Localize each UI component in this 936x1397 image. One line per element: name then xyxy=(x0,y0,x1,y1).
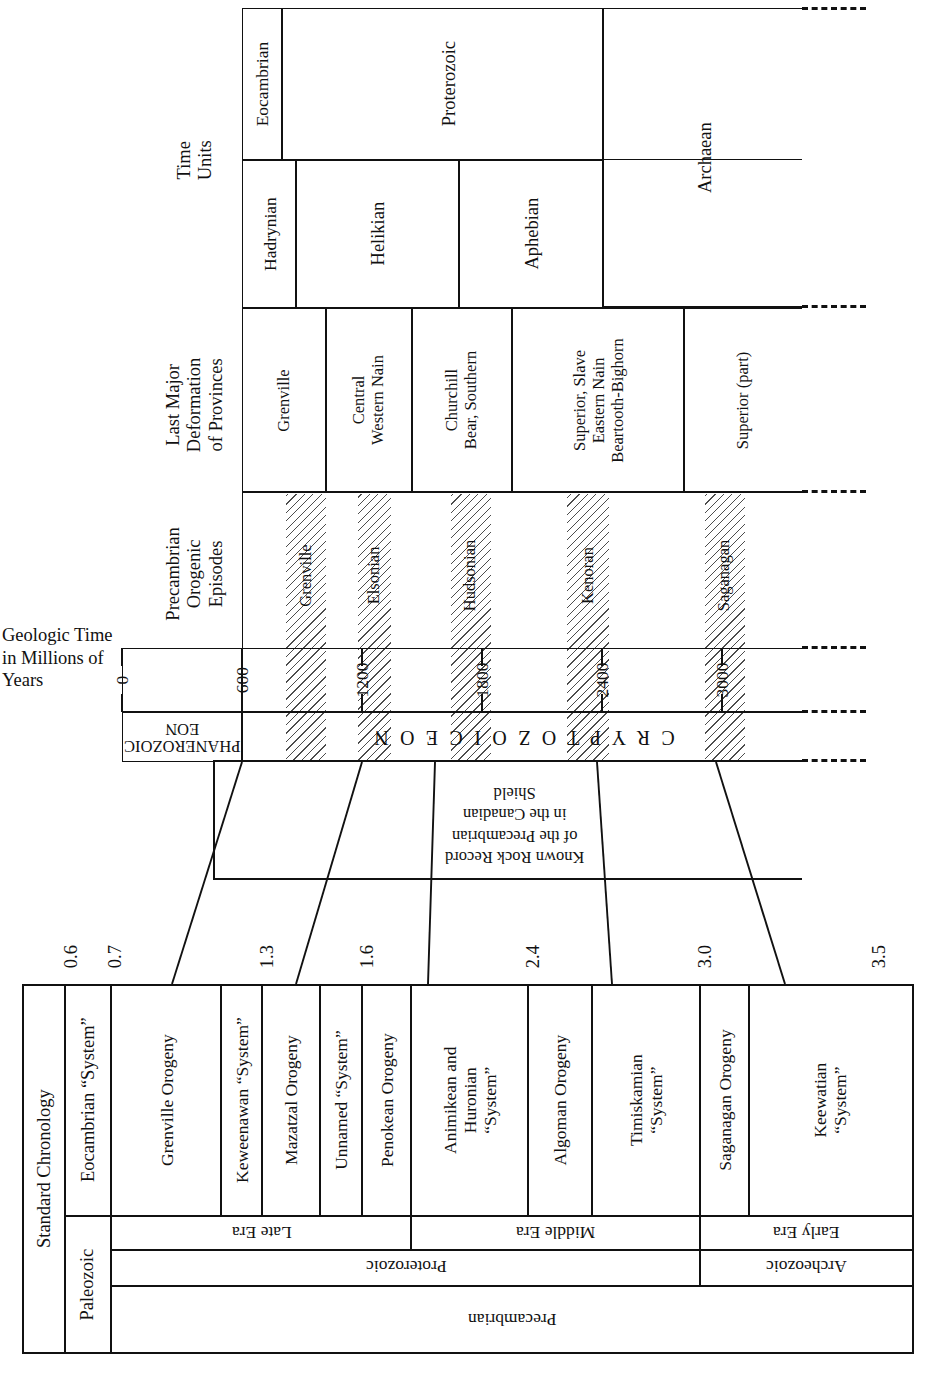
cell-deformation-2-line-1: Central xyxy=(350,355,369,445)
column-header-time-units: Time Units xyxy=(140,10,250,310)
time-units-header-line-1: Time xyxy=(174,140,195,180)
cell-aphebian-line-1: Aphebian xyxy=(522,198,543,270)
cell-deformation-1-line-1: Grenville xyxy=(275,369,294,431)
dashed-edge-4 xyxy=(802,646,866,649)
cell-deformation-2-line-2: Western Nain xyxy=(369,355,388,445)
cryptozoic-text: C R Y P T O Z O I C E O N xyxy=(371,726,675,749)
cell-orogeny-3-line-1: Hudsonian xyxy=(462,539,481,611)
rock-record-bottom-edge xyxy=(213,878,802,880)
axis-title-line-1: Geologic Time xyxy=(2,624,113,647)
cell-helikian: Helikian xyxy=(300,162,458,306)
cell-orogeny-5-line-1: Saganagan xyxy=(716,539,735,610)
dashed-edge-5 xyxy=(802,710,866,713)
scale-label-0-7: 0.7 xyxy=(98,930,134,984)
cell-archaean-line-1: Archaean xyxy=(694,123,715,194)
cell-orogeny-1: Grenville xyxy=(282,500,330,650)
cell-deformation-1: Grenville xyxy=(244,310,325,490)
cell-orogeny-4: Kenoran xyxy=(563,500,613,650)
cell-helikian-line-1: Helikian xyxy=(368,202,389,266)
cell-system-6-line-3: “System” xyxy=(480,1046,500,1153)
cell-system-2: Keweenawan “System” xyxy=(221,988,262,1212)
divider-deform-3 xyxy=(511,308,513,492)
divider-helikian-aphebian xyxy=(458,160,460,308)
cell-system-6-line-1: Animikean and xyxy=(439,1046,459,1153)
divider-deform-4 xyxy=(683,308,685,492)
rock-record-left-edge xyxy=(213,760,215,880)
cell-deformation-3-line-2: Bear, Southern xyxy=(462,351,481,449)
cell-eocambrian: Eocambrian xyxy=(243,10,281,158)
cell-system-3: Mazatzal Orogeny xyxy=(262,988,320,1212)
cell-eocambrian-line-1: Eocambrian xyxy=(252,42,272,127)
cell-system-9: Saganagan Orogeny xyxy=(700,988,749,1212)
scale-label-2-4: 2.4 xyxy=(516,930,552,984)
cell-orogeny-3: Hudsonian xyxy=(447,500,495,650)
cell-orogeny-2-line-1: Elsonian xyxy=(365,546,384,604)
dashed-edge-1 xyxy=(802,7,866,10)
cell-system-2-line-1: Keweenawan “System” xyxy=(231,1017,251,1183)
cell-system-8: Timiskamian“System” xyxy=(592,988,700,1212)
divider-era-1 xyxy=(410,1216,412,1250)
dashed-edge-3 xyxy=(802,490,866,493)
cell-system-10-line-2: “System” xyxy=(830,1063,850,1138)
cell-orogeny-4-line-1: Kenoran xyxy=(579,547,598,604)
cell-system-7: Algoman Orogeny xyxy=(528,988,592,1212)
last-deformation-header-line-3: of Provinces xyxy=(206,358,227,453)
cell-paleozoic: Paleozoic xyxy=(66,1216,110,1354)
cell-deformation-3: ChurchillBear, Southern xyxy=(413,310,511,490)
divider-eocambrian-proterozoic xyxy=(281,8,283,160)
cell-system-6-line-2: Huronian xyxy=(459,1046,479,1153)
cell-system-1-line-1: Grenville Orogeny xyxy=(156,1034,176,1166)
cell-system-9-line-1: Saganagan Orogeny xyxy=(714,1029,734,1170)
standard-chronology-title: Standard Chronology xyxy=(22,984,66,1354)
column-header-last-deformation: Last Major Deformation of Provinces xyxy=(140,312,250,498)
cell-eocambrian-system: Eocambrian “System” xyxy=(66,984,110,1216)
phanerozoic-line-2: EON xyxy=(124,720,240,737)
cell-orogeny-5: Saganagan xyxy=(701,500,749,650)
cell-orogeny-1-line-1: Grenville xyxy=(297,544,316,606)
cell-system-3-line-1: Mazatzal Orogeny xyxy=(281,1035,301,1165)
time-units-header-line-2: Units xyxy=(195,140,216,180)
cell-erathem-1: Proterozoic xyxy=(112,1250,700,1285)
cell-system-6: Animikean andHuronian“System” xyxy=(411,988,528,1212)
cell-system-1: Grenville Orogeny xyxy=(112,988,221,1212)
cell-archaean: Archaean xyxy=(610,10,800,306)
rock-record-label: Known Rock Record of the Precambrian in … xyxy=(330,776,700,874)
cell-system-10: Keewatian“System” xyxy=(749,988,912,1212)
rock-record-line-2: of the Precambrian xyxy=(445,825,584,846)
cell-era-3: Early Era xyxy=(700,1216,912,1250)
cell-precambrian: Precambrian xyxy=(112,1287,912,1353)
axis-title-line-3: Years xyxy=(2,669,113,692)
cell-deformation-4-line-1: Superior, Slave xyxy=(571,338,590,463)
cell-deformation-4-line-2: Eastern Nain xyxy=(590,338,609,463)
cell-system-5-line-1: Penokean Orogeny xyxy=(376,1033,396,1167)
rock-record-line-1: Known Rock Record xyxy=(445,846,584,867)
divider-eocambrian-paleozoic xyxy=(64,1215,112,1217)
cell-hadrynian-line-1: Hadrynian xyxy=(260,197,280,271)
cell-deformation-5-line-1: Superior (part) xyxy=(735,351,754,449)
axis-title-line-2: in Millions of xyxy=(2,647,113,670)
cell-system-4: Unnamed “System” xyxy=(320,988,362,1212)
phanerozoic-eon-label: PHANEROZOIC EON xyxy=(124,712,241,762)
divider-era-2 xyxy=(699,1216,701,1250)
cell-system-4-line-1: Unnamed “System” xyxy=(331,1030,351,1169)
dashed-edge-2 xyxy=(802,305,866,308)
orogenic-header-line-2: Orogenic xyxy=(184,527,205,621)
cell-proterozoic: Proterozoic xyxy=(300,10,600,158)
column-header-orogenic-episodes: Precambrian Orogenic Episodes xyxy=(140,500,250,648)
cell-deformation-4-line-3: Beartooth-Bighorn xyxy=(608,338,627,463)
scale-label-0-6: 0.6 xyxy=(54,930,90,984)
cell-system-7-line-1: Algoman Orogeny xyxy=(550,1035,570,1166)
scale-label-3-0: 3.0 xyxy=(688,930,724,984)
cell-proterozoic-line-1: Proterozoic xyxy=(439,41,460,126)
dashed-edge-6 xyxy=(802,759,866,762)
divider-hadrynian-helikian xyxy=(295,160,297,308)
scale-label-1-6: 1.6 xyxy=(350,930,386,984)
cell-system-8-line-1: Timiskamian xyxy=(626,1054,646,1146)
axis-tick-label-0: 0 xyxy=(106,650,138,710)
divider-erathem-1 xyxy=(699,1250,701,1285)
axis-tick-label-600: 600 xyxy=(226,650,258,710)
last-deformation-header-line-1: Last Major xyxy=(163,358,184,453)
cell-deformation-4: Superior, SlaveEastern NainBeartooth-Big… xyxy=(515,310,683,490)
cell-era-1: Late Era xyxy=(112,1216,411,1250)
cell-system-8-line-2: “System” xyxy=(646,1054,666,1146)
